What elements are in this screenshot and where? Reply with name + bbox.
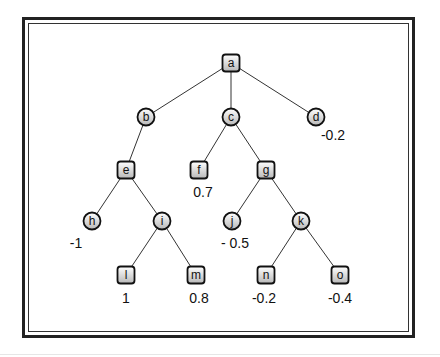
payoff-value: -0.2	[252, 290, 276, 306]
payoff-value: -0.2	[321, 127, 345, 143]
node-n: n-0.2	[252, 267, 276, 307]
node-label: k	[298, 214, 305, 228]
node-label: m	[191, 268, 201, 282]
node-c: c	[223, 109, 240, 126]
node-label: b	[143, 110, 150, 124]
payoff-value: 0.8	[189, 290, 209, 306]
payoff-value: 1	[122, 290, 130, 306]
node-label: j	[230, 214, 234, 228]
game-tree-diagram: abcd-0.2ef0.7gh-1ij- 0.5kl1m0.8n-0.2o-0.…	[0, 0, 440, 357]
node-label: g	[263, 163, 270, 177]
node-i: i	[154, 213, 171, 230]
node-label: l	[125, 268, 128, 282]
node-j: j- 0.5	[221, 213, 249, 252]
node-o: o-0.4	[328, 267, 352, 307]
edge-a-d	[231, 63, 316, 117]
node-label: h	[89, 214, 96, 228]
node-h: h-1	[70, 213, 101, 252]
tree-nodes: abcd-0.2ef0.7gh-1ij- 0.5kl1m0.8n-0.2o-0.…	[70, 55, 353, 307]
edge-a-b	[146, 63, 231, 117]
node-label: d	[313, 110, 320, 124]
node-e: e	[118, 162, 135, 179]
node-m: m0.8	[188, 267, 209, 307]
node-a: a	[223, 55, 240, 72]
node-g: g	[258, 162, 275, 179]
node-label: o	[337, 268, 344, 282]
node-label: i	[161, 214, 164, 228]
node-label: a	[228, 56, 235, 70]
node-d: d-0.2	[308, 109, 346, 144]
payoff-value: - 0.5	[221, 235, 249, 251]
payoff-value: 0.7	[193, 184, 213, 200]
node-b: b	[138, 109, 155, 126]
node-k: k	[293, 213, 310, 230]
node-label: e	[123, 163, 130, 177]
payoff-value: -1	[70, 235, 83, 251]
node-f: f0.7	[191, 162, 213, 201]
node-label: c	[228, 110, 234, 124]
node-label: n	[263, 268, 270, 282]
payoff-value: -0.4	[328, 290, 352, 306]
node-l: l1	[118, 267, 135, 307]
